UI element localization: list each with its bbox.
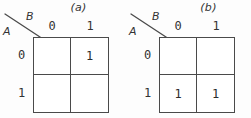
figure-a-cell-r0c0[interactable] xyxy=(34,38,71,75)
figure-canvas: (a) A B 0 1 0 1 1 xyxy=(0,0,251,118)
figure-b-cell-value-r1c0: 1 xyxy=(174,88,181,100)
figure-b-truth-grid: 1 1 xyxy=(159,37,235,113)
figure-b-cell-r1c1[interactable]: 1 xyxy=(197,75,234,112)
figure-a-cell-value-r0c1: 1 xyxy=(86,50,93,62)
figure-b: (b) A B 0 1 0 1 1 xyxy=(126,0,251,118)
figure-b-row-header-0: 0 xyxy=(140,49,155,62)
figure-b-row-variable-label: A xyxy=(129,26,137,37)
figure-a-column-header-0: 0 xyxy=(33,20,71,33)
figure-b-grid-wrapper: 0 1 0 1 1 1 xyxy=(159,37,235,113)
figure-b-column-header-0: 0 xyxy=(159,20,197,33)
figure-b-cell-value-r1c1: 1 xyxy=(212,88,219,100)
figure-a-row-variable-label: A xyxy=(3,26,11,37)
figure-b-cell-r0c0[interactable] xyxy=(160,38,197,75)
figure-a: (a) A B 0 1 0 1 1 xyxy=(0,0,125,118)
figure-a-cell-r1c0[interactable] xyxy=(34,75,71,112)
figure-a-row-header-0: 0 xyxy=(14,49,29,62)
figure-a-grid-wrapper: 0 1 0 1 1 xyxy=(33,37,109,113)
figure-a-cell-r0c1[interactable]: 1 xyxy=(71,38,108,75)
figure-a-truth-grid: 1 xyxy=(33,37,109,113)
figure-b-column-header-1: 1 xyxy=(197,20,235,33)
figure-a-cell-r1c1[interactable] xyxy=(71,75,108,112)
figure-b-cell-r1c0[interactable]: 1 xyxy=(160,75,197,112)
figure-a-column-header-1: 1 xyxy=(71,20,109,33)
figure-a-row-header-1: 1 xyxy=(14,87,29,100)
figure-b-cell-r0c1[interactable] xyxy=(197,38,234,75)
figure-b-row-header-1: 1 xyxy=(140,87,155,100)
